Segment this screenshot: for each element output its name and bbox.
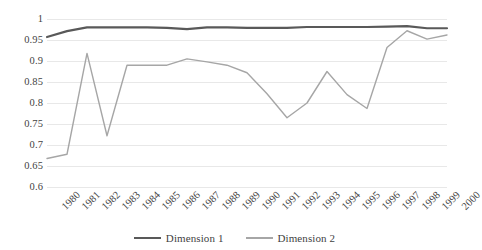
series-lines bbox=[47, 19, 447, 187]
series-line-2 bbox=[47, 31, 447, 159]
legend-label: Dimension 2 bbox=[278, 233, 336, 244]
y-axis-tick-label: 1 bbox=[0, 14, 43, 25]
x-axis-tick-label: 1983 bbox=[119, 189, 142, 212]
legend-label: Dimension 1 bbox=[166, 233, 224, 244]
plot-area bbox=[47, 19, 447, 187]
legend-item-1[interactable]: Dimension 1 bbox=[134, 233, 224, 244]
x-axis-tick-label: 1996 bbox=[379, 189, 402, 212]
x-axis-tick-label: 1984 bbox=[139, 189, 162, 212]
x-axis-tick-label: 2000 bbox=[459, 189, 482, 212]
x-axis-tick-label: 1989 bbox=[239, 189, 262, 212]
legend-swatch-icon bbox=[246, 237, 273, 239]
x-axis-tick-label: 1998 bbox=[419, 189, 442, 212]
x-axis: 1980198119821983198419851986198719881989… bbox=[47, 189, 447, 229]
x-axis-tick-label: 1982 bbox=[99, 189, 122, 212]
y-axis-tick-label: 0.7 bbox=[0, 140, 43, 151]
y-axis-tick-label: 0.85 bbox=[0, 77, 43, 88]
x-axis-tick-label: 1991 bbox=[279, 189, 302, 212]
x-axis-tick-label: 1990 bbox=[259, 189, 282, 212]
y-axis-tick-label: 0.6 bbox=[0, 182, 43, 193]
y-axis-tick-label: 0.65 bbox=[0, 161, 43, 172]
y-axis-tick-label: 0.9 bbox=[0, 56, 43, 67]
y-axis-tick-label: 0.8 bbox=[0, 98, 43, 109]
x-axis-tick-label: 1988 bbox=[219, 189, 242, 212]
legend-item-2[interactable]: Dimension 2 bbox=[246, 233, 336, 244]
series-line-1 bbox=[47, 26, 447, 37]
x-axis-tick-label: 1987 bbox=[199, 189, 222, 212]
y-axis: 10.950.90.850.80.750.70.650.6 bbox=[0, 0, 43, 206]
x-axis-tick-label: 1992 bbox=[299, 189, 322, 212]
chart-legend: Dimension 1Dimension 2 bbox=[0, 228, 469, 248]
legend-swatch-icon bbox=[134, 237, 161, 240]
x-axis-tick-label: 1980 bbox=[59, 189, 82, 212]
x-axis-tick-label: 1993 bbox=[319, 189, 342, 212]
x-axis-tick-label: 1994 bbox=[339, 189, 362, 212]
x-axis-tick-label: 1999 bbox=[439, 189, 462, 212]
x-axis-tick-label: 1997 bbox=[399, 189, 422, 212]
x-axis-tick-label: 1985 bbox=[159, 189, 182, 212]
gridline-0.6 bbox=[47, 187, 447, 188]
y-axis-tick-label: 0.95 bbox=[0, 35, 43, 46]
y-axis-tick-label: 0.75 bbox=[0, 119, 43, 130]
x-axis-tick-label: 1981 bbox=[79, 189, 102, 212]
x-axis-tick-label: 1995 bbox=[359, 189, 382, 212]
x-axis-tick-label: 1986 bbox=[179, 189, 202, 212]
